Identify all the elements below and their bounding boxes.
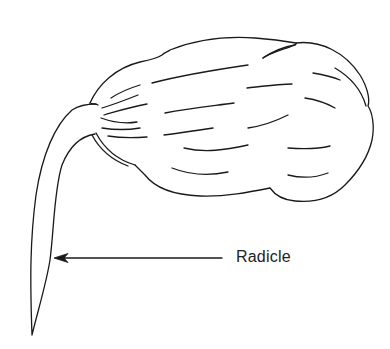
seed-wrinkles: [101, 45, 340, 177]
radicle: [31, 103, 98, 335]
radicle-pointer-arrow: [54, 254, 222, 263]
seed-diagram: [0, 0, 390, 349]
radicle-label: Radicle: [236, 248, 291, 266]
seed-body: [90, 38, 373, 202]
